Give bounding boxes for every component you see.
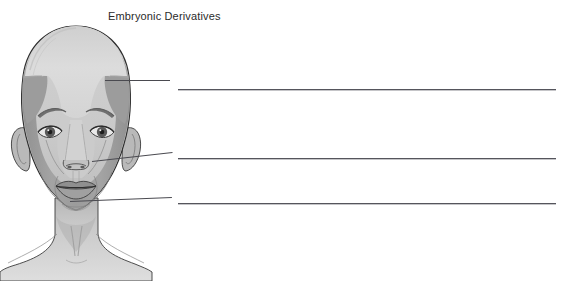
figure-canvas: Embryonic Derivatives — [0, 0, 582, 281]
answer-line-1[interactable] — [178, 89, 556, 90]
head-illustration — [0, 20, 200, 281]
head-anatomy-svg — [0, 20, 200, 281]
leader-line-1 — [105, 80, 170, 81]
answer-line-2[interactable] — [178, 158, 556, 159]
answer-line-3[interactable] — [178, 203, 556, 204]
